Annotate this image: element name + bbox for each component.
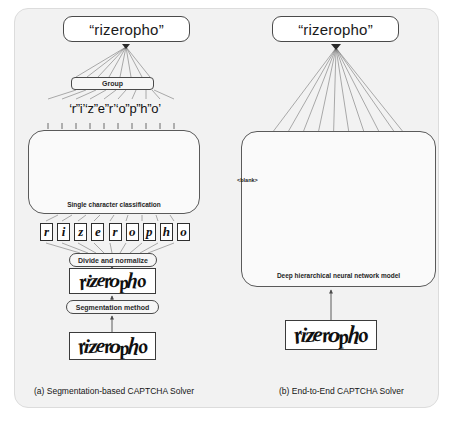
segmented-glyph: o <box>177 223 190 241</box>
captcha-char: o <box>136 334 149 358</box>
group-box-a: Group <box>71 77 154 90</box>
fan-glyphs-to-divide-a <box>46 243 174 253</box>
fan-apex-a <box>122 44 130 49</box>
segmented-glyph-strip-a: r i z e r o p h o <box>40 222 190 242</box>
segmented-glyph: e <box>91 223 104 241</box>
captcha-text: r i z e r o p h o <box>70 269 155 293</box>
segmented-glyph: i <box>57 223 70 241</box>
captcha-image-raw-a: r i z e r o p h o <box>69 332 156 360</box>
segmented-glyph: r <box>109 223 122 241</box>
fan-glyphs-to-model-a <box>46 215 174 221</box>
model-box-b <box>241 131 436 287</box>
captcha-char: o <box>135 269 147 292</box>
blank-node-label-b: <blank> <box>237 178 258 184</box>
figure-caption-a: (a) Segmentation-based CAPTCHA Solver <box>34 386 194 396</box>
figure-caption-b: (b) End-to-End CAPTCHA Solver <box>279 386 404 396</box>
model-caption-b: Deep hierarchical neural network model <box>241 272 436 279</box>
character-string-a: ‘r”i’‘z”e”r’‘o”p”h”o’ <box>40 102 190 115</box>
figure-root: “rizeropho” Group ‘r”i’‘z”e”r’‘o”p”h”o’ … <box>0 0 471 429</box>
captcha-image-raw-b: r i z e r o p h o <box>285 320 377 350</box>
output-box-a: “rizeropho” <box>63 16 190 42</box>
model-caption-a: Single character classification <box>28 201 200 208</box>
char-input-ticks-a <box>48 123 174 129</box>
fan-chars-to-group-a <box>48 90 174 99</box>
fan-group-to-output-a <box>76 47 150 77</box>
output-box-b: “rizeropho” <box>272 16 399 42</box>
divide-and-normalize-box-a: Divide and normalize <box>69 253 157 267</box>
captcha-text: r i z e r o p h o <box>70 333 155 359</box>
segmentation-method-box-a: Segmentation method <box>66 300 159 314</box>
segmented-glyph: h <box>160 223 173 241</box>
captcha-text: r i z e r o p h o <box>286 321 376 349</box>
segmented-glyph: p <box>143 223 156 241</box>
segmented-glyph: r <box>40 223 53 241</box>
segmented-glyph: o <box>126 223 139 241</box>
captcha-image-normalized-a: r i z e r o p h o <box>69 268 156 294</box>
fan-apex-b <box>331 44 341 50</box>
captcha-char: o <box>356 322 370 348</box>
segmented-glyph: z <box>74 223 87 241</box>
